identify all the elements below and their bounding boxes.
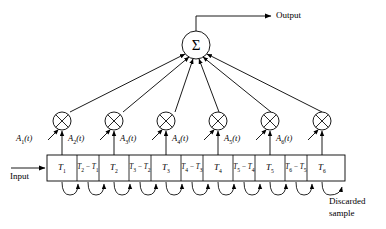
multiplier-symbols <box>53 112 331 130</box>
cell-label-tap-1: T1 <box>58 162 66 174</box>
multiplier-to-sum-links <box>70 54 322 112</box>
multiplier-cross-glyphs <box>56 115 329 128</box>
cell-label-gap-1: T2 − T1 <box>77 163 98 172</box>
cell-label-tap-6: T6 <box>318 162 326 174</box>
diagram-canvas <box>0 0 386 229</box>
cell-label-tap-2: T2 <box>110 162 118 174</box>
cell-label-tap-3: T3 <box>162 162 170 174</box>
weight-label-5: A5(t) <box>224 134 240 146</box>
cell-label-tap-4: T4 <box>214 162 222 174</box>
cell-label-gap-4: T5 − T4 <box>233 163 254 172</box>
discarded-sample-label-line2: sample <box>329 208 355 218</box>
cell-label-gap-5: T6 − T5 <box>285 163 306 172</box>
shift-arrows <box>62 182 342 195</box>
weight-label-2: A2(t) <box>68 134 84 146</box>
weight-label-6: A6(t) <box>276 134 292 146</box>
weight-label-1: A1(t) <box>16 134 32 146</box>
weight-label-3: A3(t) <box>120 134 136 146</box>
output-label: Output <box>276 10 301 20</box>
discarded-sample-label-line1: Discarded <box>329 196 365 206</box>
output-path <box>196 16 271 31</box>
cell-label-gap-2: T3 − T2 <box>129 163 150 172</box>
cell-label-tap-5: T5 <box>266 162 274 174</box>
cell-label-gap-3: T4 − T3 <box>181 163 202 172</box>
input-label: Input <box>10 171 29 181</box>
summation-symbol: Σ <box>192 37 201 54</box>
weight-label-4: A4(t) <box>172 134 188 146</box>
delay-line-diagram: Σ Output Input Discarded sample A1(t) A2… <box>0 0 386 229</box>
